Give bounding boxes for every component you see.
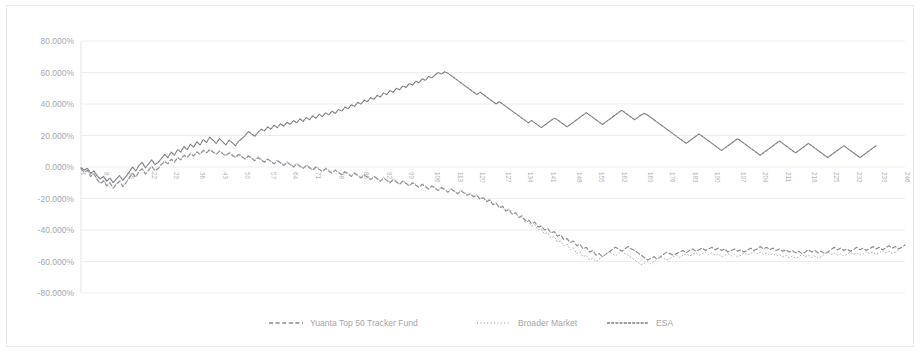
y-axis-tick-labels: 80.000%60.000%40.000%20.000%0.000%-20.00… [38,36,75,298]
x-axis-tick-label: 211 [785,172,792,183]
x-axis-tick-label: 64 [292,172,299,180]
y-axis-tick-label: 0.000% [45,162,74,172]
x-axis-tick-label: 57 [270,172,277,180]
series-line [81,72,876,183]
x-axis-tick-label: 148 [576,172,583,183]
x-axis-tick-label: 246 [904,172,911,183]
y-axis-tick-label: 20.000% [40,131,74,141]
series-line [81,150,905,260]
x-axis-tick-label: 183 [692,172,699,183]
data-series-group [81,72,905,265]
x-axis-tick-label: 99 [408,172,415,180]
legend-label[interactable]: Yuanta Top 50 Tracker Fund [310,318,418,328]
x-axis-tick-label: 141 [550,172,557,183]
line-chart: 80.000%60.000%40.000%20.000%0.000%-20.00… [7,6,915,348]
chart-svg: 80.000%60.000%40.000%20.000%0.000%-20.00… [7,6,915,348]
y-axis-tick-label: -60.000% [38,257,75,267]
y-axis-tick-label: -80.000% [38,288,75,298]
legend-label[interactable]: Broader Market [518,318,578,328]
x-axis-tick-labels: 1815222936435057647178859299106113120127… [80,172,911,183]
x-axis-tick-label: 190 [714,172,721,183]
x-axis-tick-label: 50 [244,172,251,180]
x-axis-tick-label: 197 [740,172,747,183]
x-axis-tick-label: 176 [669,172,676,183]
gridlines [81,41,905,293]
x-axis-tick-label: 106 [434,172,441,183]
x-axis-tick-label: 155 [598,172,605,183]
x-axis-tick-label: 29 [173,172,180,180]
y-axis-tick-label: 60.000% [40,68,74,78]
x-axis-tick-label: 204 [762,172,769,183]
y-axis-tick-label: 40.000% [40,99,74,109]
x-axis-tick-label: 218 [811,172,818,183]
x-axis-tick-label: 8 [103,172,110,176]
x-axis-tick-label: 169 [647,172,654,183]
x-axis-tick-label: 134 [527,172,534,183]
x-axis-tick-label: 71 [315,172,322,180]
x-axis-tick-label: 225 [833,172,840,183]
chart-legend[interactable]: Yuanta Top 50 Tracker FundBroader Market… [269,318,673,328]
x-axis-tick-label: 43 [222,172,229,180]
chart-card: 80.000%60.000%40.000%20.000%0.000%-20.00… [6,5,914,347]
x-axis-tick-label: 113 [457,172,464,183]
x-axis-tick-label: 36 [199,172,206,180]
x-axis-tick-label: 1 [80,172,87,176]
y-axis-tick-label: -20.000% [38,194,75,204]
y-axis-tick-label: 80.000% [40,36,74,46]
x-axis-tick-label: 120 [479,172,486,183]
x-axis-tick-label: 162 [621,172,628,183]
y-axis-tick-label: -40.000% [38,225,75,235]
x-axis-tick-label: 22 [151,172,158,180]
x-axis-tick-label: 127 [505,172,512,183]
x-axis-tick-label: 239 [881,172,888,183]
legend-label[interactable]: ESA [656,318,673,328]
series-line [81,149,899,265]
x-axis-tick-label: 92 [386,172,393,180]
x-axis-tick-label: 232 [856,172,863,183]
